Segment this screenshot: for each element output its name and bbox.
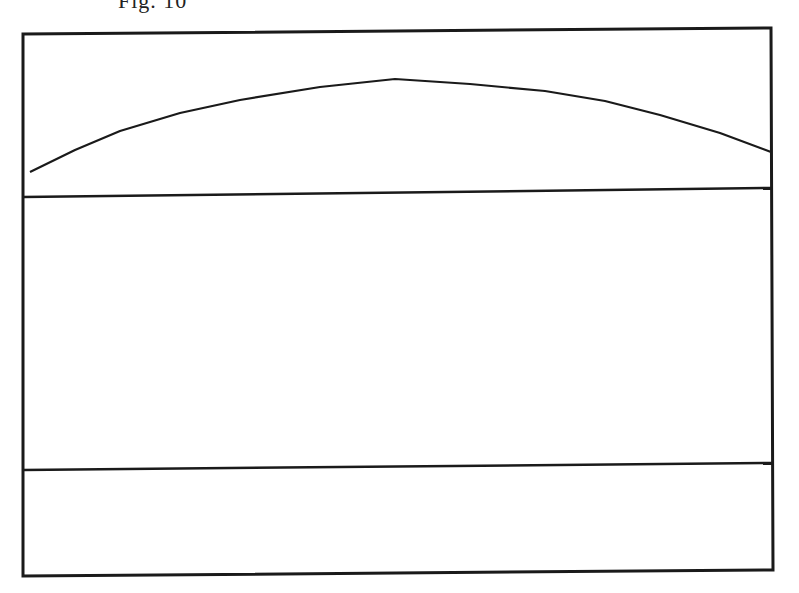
arc-curve xyxy=(30,79,771,172)
lower-divider-line xyxy=(23,463,773,470)
top-arc-region xyxy=(25,36,769,186)
bottom-region xyxy=(25,472,769,572)
diagram-canvas xyxy=(0,0,799,593)
middle-region xyxy=(25,198,769,460)
upper-divider-line xyxy=(23,188,771,197)
outer-frame xyxy=(23,28,773,576)
